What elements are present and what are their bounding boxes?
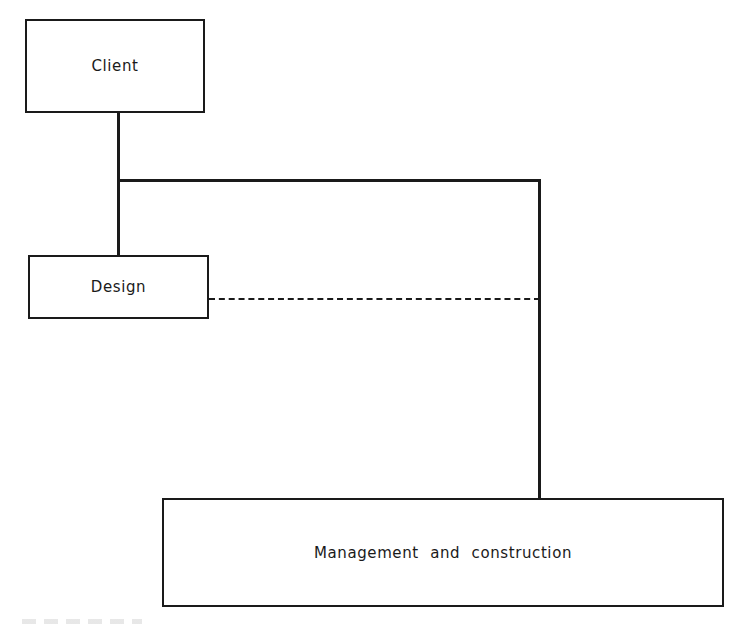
design-label: Design [91,278,146,296]
design-to-management-dashed-connector [209,298,540,300]
figure-caption-cutoff [22,619,142,624]
design-box: Design [28,255,209,319]
client-to-management-horizontal-connector [117,179,541,182]
client-to-design-connector [117,112,120,256]
client-label: Client [91,57,138,75]
management-box: Management and construction [162,498,724,607]
management-vertical-connector [538,179,541,499]
management-label: Management and construction [314,544,572,562]
client-box: Client [25,19,205,113]
